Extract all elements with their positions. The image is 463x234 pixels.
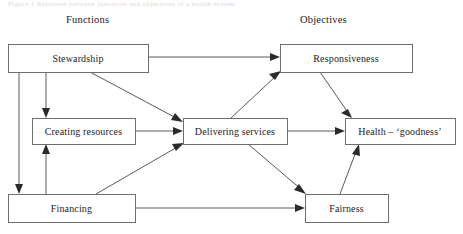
node-label-financing: Financing xyxy=(8,194,135,222)
edge-stewardship-to-responsiveness xyxy=(148,53,280,61)
edge-fairness-to-health xyxy=(340,144,360,194)
node-label-fairness: Fairness xyxy=(305,194,388,222)
node-label-responsiveness: Responsiveness xyxy=(280,44,412,72)
edge-delivering-services-to-responsiveness xyxy=(231,71,281,118)
edge-stewardship-to-creating-resources xyxy=(42,72,50,118)
node-label-health-goodness: Health – ‘goodness’ xyxy=(345,118,455,144)
edge-financing-to-creating-resources xyxy=(42,144,50,194)
edge-responsiveness-to-health xyxy=(320,72,352,118)
diagram-canvas: Figure 1 Relations between functions and… xyxy=(0,0,463,234)
node-label-delivering-services: Delivering services xyxy=(183,118,287,144)
column-header-objectives: Objectives xyxy=(300,14,347,25)
edge-stewardship-to-delivering-services xyxy=(90,72,183,122)
edge-creating-resources-to-delivering-services xyxy=(135,127,183,135)
node-label-stewardship: Stewardship xyxy=(8,44,148,72)
edge-financing-to-fairness xyxy=(135,204,305,212)
edge-financing-to-delivering-services xyxy=(96,143,184,194)
edge-stewardship-to-financing xyxy=(15,72,23,194)
edge-delivering-services-to-health xyxy=(287,127,345,135)
edge-delivering-services-to-fairness xyxy=(248,144,306,194)
node-label-creating-resources: Creating resources xyxy=(32,118,135,144)
column-header-functions: Functions xyxy=(66,14,109,25)
